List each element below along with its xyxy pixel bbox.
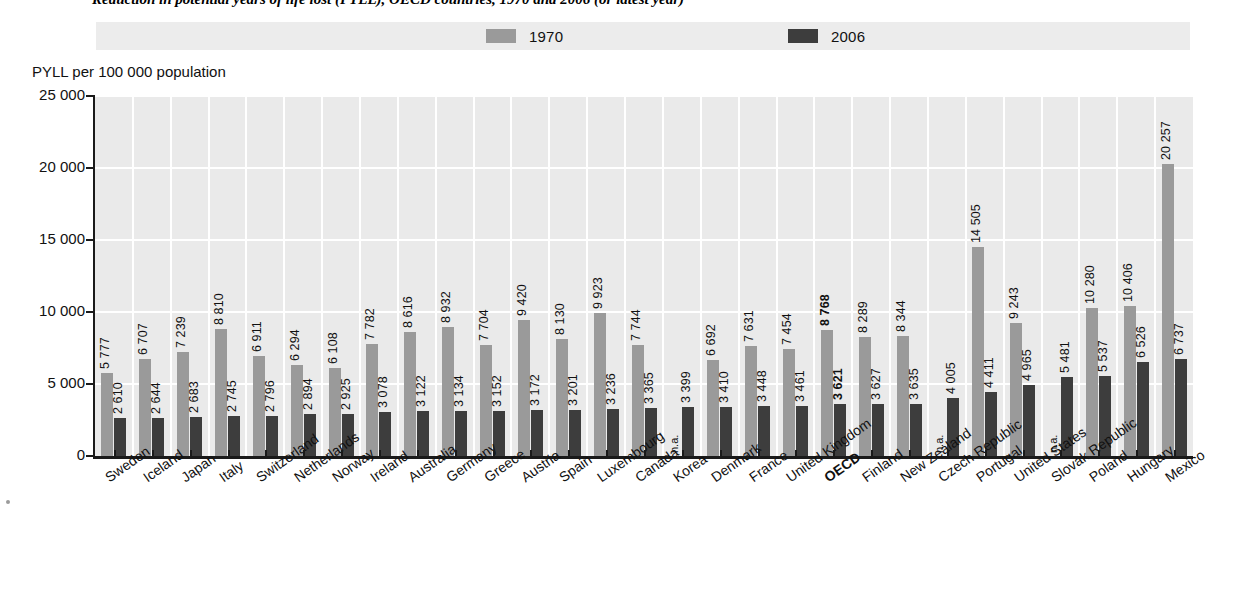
gridline-vertical	[965, 96, 967, 456]
gridline-vertical	[359, 96, 361, 456]
bar-1970	[1086, 308, 1098, 456]
bar-value-label-2006: 5 537	[1096, 341, 1110, 373]
bar-value-label-1970: 6 911	[250, 322, 264, 353]
y-axis-tick	[86, 239, 95, 241]
bar-value-label-2006: 2 683	[187, 382, 201, 414]
gridline-vertical	[208, 96, 210, 456]
gridline-vertical	[1154, 96, 1156, 456]
bar-2006	[417, 411, 429, 456]
x-axis-tick	[228, 450, 230, 457]
figure-title: Reduction in potential years of life los…	[92, 0, 684, 8]
gridline-vertical	[510, 96, 512, 456]
bar-2006	[266, 416, 278, 456]
bar-2006	[379, 412, 391, 456]
bar-value-label-2006: 3 399	[679, 371, 693, 403]
bar-value-label-2006: 3 365	[642, 372, 656, 404]
bar-value-label-1970: 10 280	[1083, 265, 1097, 304]
x-axis-tick	[303, 450, 305, 457]
x-axis-tick	[758, 450, 760, 457]
gridline-vertical	[662, 96, 664, 456]
bar-value-label-2006: 6 737	[1172, 323, 1186, 355]
bar-value-label-1970: 6 707	[136, 324, 150, 356]
x-axis-tick	[644, 450, 646, 457]
x-axis-tick	[417, 450, 419, 457]
gridline-vertical	[1116, 96, 1118, 456]
legend-label-2006: 2006	[831, 28, 865, 45]
gridline-vertical	[548, 96, 550, 456]
gridline-vertical	[889, 96, 891, 456]
gridline-vertical	[1041, 96, 1043, 456]
y-axis-tick-label: 25 000	[0, 86, 85, 103]
bar-2006	[910, 404, 922, 456]
gridline-vertical	[624, 96, 626, 456]
gridline	[95, 95, 1193, 97]
x-axis-tick	[190, 450, 192, 457]
bar-value-label-2006: 3 078	[376, 376, 390, 408]
bar-value-label-2006: 4 965	[1020, 349, 1034, 381]
bar-value-label-2006: 3 122	[414, 375, 428, 407]
bar-value-label-1970: 7 704	[477, 309, 491, 341]
x-axis-tick	[114, 450, 116, 457]
gridline-vertical	[435, 96, 437, 456]
gridline	[95, 239, 1193, 241]
bar-2006	[1175, 359, 1187, 456]
bar-value-label-1970: 7 744	[629, 309, 643, 341]
x-axis-tick	[455, 450, 457, 457]
bar-value-label-2006: 2 894	[301, 379, 315, 411]
bar-value-label-2006: 3 201	[566, 374, 580, 406]
bar-value-label-1970: 9 923	[591, 277, 605, 309]
bar-value-label-2006: 3 236	[604, 374, 618, 406]
gridline-vertical	[813, 96, 815, 456]
bar-2006	[720, 407, 732, 456]
gridline	[95, 167, 1193, 169]
bar-value-label-2006: 3 621	[831, 368, 845, 400]
y-axis-tick	[86, 311, 95, 313]
x-axis-tick	[568, 450, 570, 457]
bar-value-label-2006: 3 172	[528, 375, 542, 407]
gridline-vertical	[132, 96, 134, 456]
bar-value-label-1970: 7 631	[742, 310, 756, 342]
bar-2006	[531, 410, 543, 456]
legend-label-1970: 1970	[529, 28, 563, 45]
bar-value-label-1970: 6 294	[288, 330, 302, 362]
x-axis-tick	[909, 450, 911, 457]
x-axis-tick	[1136, 450, 1138, 457]
x-axis-tick	[1098, 450, 1100, 457]
y-axis-tick-label: 20 000	[0, 158, 85, 175]
y-axis-tick-label: 10 000	[0, 302, 85, 319]
bar-value-label-1970: 7 454	[780, 313, 794, 345]
bar-value-label-1970: 8 289	[856, 301, 870, 333]
x-axis-tick	[985, 450, 987, 457]
y-axis-tick	[86, 95, 95, 97]
bar-value-label-2006: 2 644	[149, 382, 163, 414]
x-axis-tick	[947, 450, 949, 457]
x-axis-tick	[265, 450, 267, 457]
bar-2006	[190, 417, 202, 456]
gridline-vertical	[321, 96, 323, 456]
bar-value-label-2006: 6 526	[1134, 326, 1148, 358]
bar-value-label-2006: 2 925	[339, 378, 353, 410]
bar-value-label-1970: 7 239	[174, 316, 188, 348]
plot-area: 5 7772 6106 7072 6447 2392 6838 8102 745…	[95, 96, 1193, 456]
y-axis-tick	[86, 383, 95, 385]
y-axis-tick-label: 5 000	[0, 374, 85, 391]
bar-2006	[1023, 385, 1035, 456]
chart-legend: 1970 2006	[96, 22, 1190, 50]
bar-value-label-1970: 6 108	[326, 332, 340, 364]
bar-value-label-1970: 8 344	[894, 300, 908, 332]
bar-2006	[569, 410, 581, 456]
bar-2006	[228, 416, 240, 456]
bar-value-label-1970: 20 257	[1159, 121, 1173, 160]
x-axis-tick	[720, 450, 722, 457]
bar-2006	[872, 404, 884, 456]
figure-title-strip: Reduction in potential years of life los…	[0, 0, 1248, 13]
bar-value-label-2006: 3 461	[793, 370, 807, 402]
bar-2006	[114, 418, 126, 456]
bar-value-label-1970: 5 777	[98, 337, 112, 369]
x-axis-tick	[606, 450, 608, 457]
x-axis-tick	[1174, 450, 1176, 457]
scan-speck	[6, 500, 10, 504]
country-label: Italy	[216, 457, 246, 485]
bar-1970	[783, 349, 795, 456]
legend-swatch-1970	[486, 29, 516, 43]
